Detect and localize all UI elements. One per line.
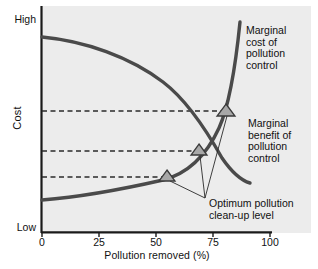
y-axis-title: Cost [11, 88, 23, 148]
annotation-marginal-benefit: Marginal benefit of pollution control [248, 118, 318, 164]
annotation-optimum-level: Optimum pollution clean-up level [209, 198, 318, 221]
leader-line-middle [200, 156, 205, 198]
marker-optimum-point[interactable] [217, 104, 235, 116]
y-tick-low: Low [0, 221, 36, 233]
x-tick-50: 50 [141, 236, 171, 248]
x-tick-25: 25 [84, 236, 114, 248]
chart-figure: Cost High Low 0 25 50 75 100 Pollution r… [0, 0, 318, 269]
leader-line-optimum [205, 116, 227, 198]
y-tick-high: High [0, 13, 36, 25]
marginal-benefit-curve [42, 37, 250, 183]
x-axis-title: Pollution removed (%) [41, 249, 273, 261]
x-tick-75: 75 [198, 236, 228, 248]
x-tick-0: 0 [27, 236, 57, 248]
x-tick-100: 100 [255, 236, 285, 248]
leader-line-lower [170, 181, 205, 198]
annotation-marginal-cost: Marginal cost of pollution control [246, 25, 318, 71]
data-markers [159, 104, 235, 181]
